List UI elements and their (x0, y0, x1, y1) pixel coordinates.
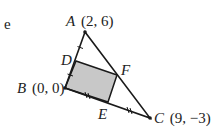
label-b: B (0, 0) (17, 80, 64, 97)
label-a: A (2, 6) (65, 13, 113, 30)
label-a-letter: A (65, 13, 76, 29)
label-c: C (9, −3) (154, 110, 211, 127)
point-c-dot (148, 116, 152, 120)
triangle-diagram: e A (2, 6) B (0, 0) C (9, −3) D F E (0, 0, 213, 134)
label-b-letter: B (17, 80, 26, 96)
label-c-coords: (9, −3) (170, 110, 211, 127)
label-d: D (60, 52, 72, 68)
label-b-coords: (0, 0) (32, 80, 65, 97)
label-c-letter: C (154, 110, 165, 126)
margin-letter: e (4, 16, 11, 32)
label-e: E (97, 106, 107, 122)
label-f: F (120, 62, 131, 78)
label-a-coords: (2, 6) (81, 13, 114, 30)
point-a-dot (83, 30, 87, 34)
